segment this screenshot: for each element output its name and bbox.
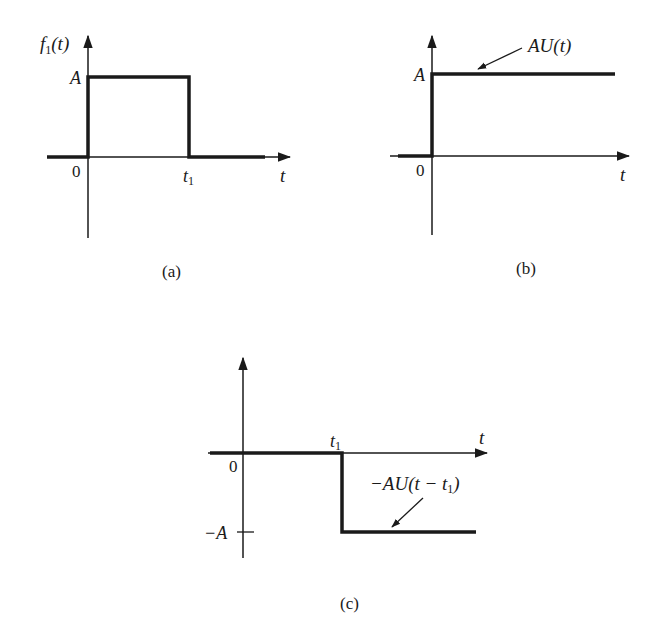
panel-b-x-label: t [620, 164, 626, 185]
panel-a-rect-pulse: f1(t) A 0 t1 t (a) [40, 33, 290, 281]
panel-b-level-label: A [413, 65, 426, 85]
panel-c-pointer-arrow [392, 498, 423, 527]
panel-b-step: A 0 t AU(t) (b) [390, 35, 629, 278]
panel-a-t1-label: t1 [183, 166, 194, 188]
panel-a-caption: (a) [162, 262, 181, 281]
panel-a-x-label: t [280, 165, 286, 186]
panel-b-step-curve [398, 74, 615, 156]
signal-decomposition-figure: f1(t) A 0 t1 t (a) A 0 t AU(t) (b) t1 t … [0, 0, 662, 633]
panel-a-pulse-curve [47, 77, 265, 157]
panel-b-caption: (b) [516, 259, 536, 278]
panel-c-curve-label: −AU(t − t1) [370, 473, 460, 496]
panel-c-level-label: −A [204, 523, 228, 543]
panel-b-curve-label: AU(t) [526, 35, 571, 57]
panel-c-negative-step: t1 t 0 −A −AU(t − t1) (c) [204, 358, 487, 613]
panel-a-level-label: A [69, 68, 82, 88]
panel-c-origin-label: 0 [229, 457, 238, 476]
panel-c-x-label: t [479, 427, 485, 448]
panel-c-caption: (c) [340, 594, 359, 613]
panel-b-origin-label: 0 [416, 161, 425, 180]
panel-c-t1-label: t1 [330, 431, 341, 453]
panel-a-y-label: f1(t) [40, 33, 69, 57]
panel-a-origin-label: 0 [72, 162, 81, 181]
panel-b-pointer-arrow [478, 48, 522, 69]
